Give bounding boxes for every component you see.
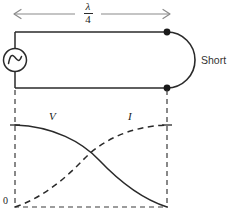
ac-source-circle: [4, 49, 27, 72]
current-curve: [15, 125, 167, 207]
transmission-line-figure: λ 4 Short V I 0: [0, 0, 233, 213]
lambda-numerator: λ: [79, 1, 97, 13]
ac-source-sine-icon: [4, 49, 27, 72]
lambda-quarter-label: λ 4: [79, 1, 97, 25]
transmission-line-conductors: [15, 32, 167, 88]
figure-canvas: [0, 0, 233, 213]
lambda-denominator: 4: [79, 14, 97, 26]
voltage-curve: [15, 125, 167, 207]
terminal-node-dot-top: [164, 29, 171, 36]
short-label: Short: [201, 55, 226, 66]
voltage-series-label: V: [49, 111, 56, 122]
short-semicircle: [167, 32, 195, 88]
origin-label: 0: [3, 196, 8, 206]
current-series-label: I: [128, 111, 132, 122]
short-termination: [164, 29, 195, 92]
graph-axes-dashed: [14, 90, 168, 207]
